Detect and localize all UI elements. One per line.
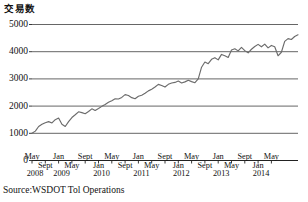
y-axis-tick-label: 3000 (0, 73, 28, 83)
y-axis-tick-label: 4000 (0, 46, 28, 56)
x-axis-month-label: May (264, 152, 279, 161)
x-axis-month-label: Sept (78, 152, 93, 161)
source-note: Source:WSDOT Tol Operations (3, 185, 124, 195)
x-axis-month-label: Sept (198, 161, 213, 170)
x-axis-year-label: 2010 (93, 169, 110, 178)
y-axis-tick-label: 1000 (0, 128, 28, 138)
y-axis-tick-label: 5000 (0, 19, 28, 29)
x-axis-year-label: 2009 (53, 169, 70, 178)
x-axis-month-label: Jan (133, 152, 144, 161)
x-axis-month-label: Sept (237, 152, 252, 161)
x-axis-year-label: 2008 (27, 169, 44, 178)
x-axis-tick-labels: MayJanSeptMayJanSeptMayJanSeptMaySeptMay… (0, 152, 308, 186)
x-axis-month-label: Sept (118, 161, 133, 170)
x-axis-month-label: Jan (213, 152, 224, 161)
x-axis-month-label: Jan (53, 152, 64, 161)
data-series-line (32, 35, 298, 133)
chart-figure: 交易数 010002000300040005000 MayJanSeptMayJ… (0, 0, 308, 202)
y-axis-tick-label: 2000 (0, 101, 28, 111)
x-axis-month-label: Sept (158, 152, 173, 161)
x-axis-year-label: 2014 (253, 169, 270, 178)
x-axis-year-label: 2012 (173, 169, 190, 178)
x-axis-year-label: 2013 (213, 169, 230, 178)
x-axis-year-label: 2011 (133, 169, 149, 178)
